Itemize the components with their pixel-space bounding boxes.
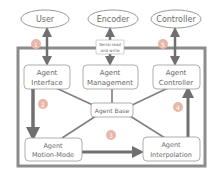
encoder-label: Encoder [97,15,130,24]
svg-text:Interface: Interface [31,79,62,87]
svg-text:Agent Base: Agent Base [95,107,130,115]
svg-text:and write: and write [101,48,120,53]
svg-text:3: 3 [109,132,113,139]
svg-text:Controller: Controller [159,79,194,87]
step-3-badge: 3 [106,130,116,140]
serial-label: Serial read and write [96,40,124,54]
svg-text:Serial read: Serial read [99,42,121,47]
svg-text:Motion-Mode: Motion-Mode [32,151,74,159]
svg-text:Agent: Agent [161,141,181,149]
agent-architecture-diagram: User Encoder Controller Serial read and … [0,0,216,179]
step-5-badge: 5 [158,39,168,49]
controller-label: Controller [156,15,196,24]
step-2-badge: 2 [38,99,48,109]
svg-text:2: 2 [41,101,45,108]
agent-base-box: Agent Base [91,103,133,117]
agent-controller-box: Agent Controller [153,65,200,89]
svg-text:5: 5 [161,41,165,48]
svg-text:Agent: Agent [166,69,187,77]
user-label: User [36,15,55,24]
agent-interpolation-box: Agent Interpolation [143,137,200,161]
svg-text:1: 1 [34,41,38,48]
controller-node: Controller [151,10,201,28]
svg-text:Agent: Agent [100,69,121,77]
svg-text:Management: Management [87,79,133,87]
agent-interface-box: Agent Interface [24,65,70,89]
encoder-node: Encoder [88,10,138,28]
svg-text:Agent: Agent [37,69,58,77]
step-4-badge: 4 [173,102,183,112]
svg-text:Interpolation: Interpolation [150,151,192,159]
user-node: User [21,10,69,28]
agent-motion-mode-box: Agent Motion-Mode [25,138,82,161]
svg-text:4: 4 [176,104,180,111]
agent-management-box: Agent Management [83,65,138,89]
step-1-badge: 1 [31,39,41,49]
svg-text:Agent: Agent [43,142,63,150]
